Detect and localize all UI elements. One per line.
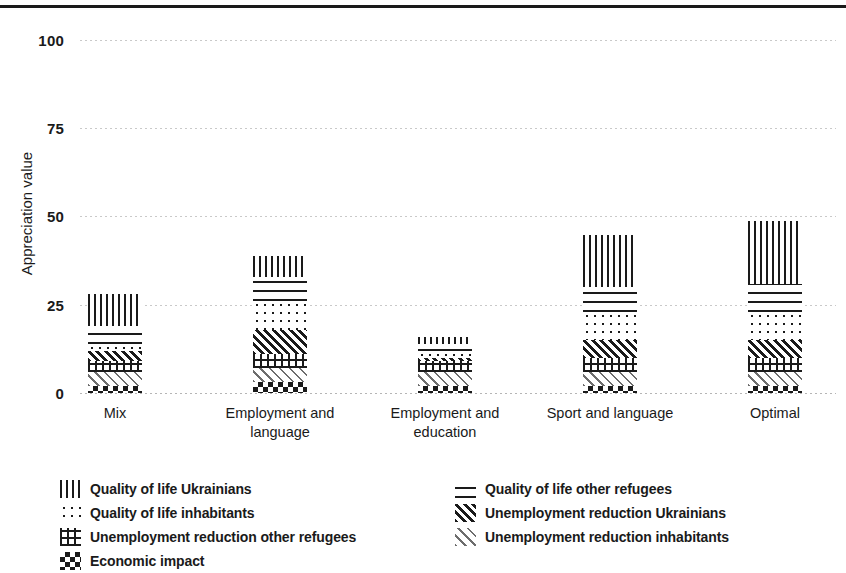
bar-segment <box>748 284 802 312</box>
y-tick-75: 75 <box>20 120 64 137</box>
bar-sport-and-language[interactable] <box>583 235 637 393</box>
bar-segment <box>418 372 472 386</box>
bar-segment <box>253 382 307 393</box>
legend-label: Quality of life inhabitants <box>90 505 255 521</box>
axis-baseline <box>80 393 836 394</box>
y-tick-0: 0 <box>20 385 64 402</box>
horizontal-lines-swatch-icon <box>455 480 476 498</box>
x-tick-sport-and-language: Sport and language <box>535 404 685 423</box>
legend-item-unemployment-reduction-ukrainians[interactable]: Unemployment reduction Ukrainians <box>455 504 726 522</box>
bar-segment <box>418 351 472 358</box>
x-tick-optimal: Optimal <box>700 404 846 423</box>
bar-segment <box>748 340 802 358</box>
gridline-75 <box>80 128 836 129</box>
bar-segment <box>253 330 307 355</box>
cross-grid-swatch-icon <box>60 528 81 546</box>
y-tick-25: 25 <box>20 297 64 314</box>
gridline-100 <box>80 40 836 41</box>
vertical-lines-swatch-icon <box>60 480 81 498</box>
legend-label: Quality of life other refugees <box>485 481 672 497</box>
bar-employment-and-language[interactable] <box>253 256 307 393</box>
bar-segment <box>748 312 802 340</box>
dots-swatch-icon <box>60 504 81 522</box>
bar-employment-and-education[interactable] <box>418 337 472 393</box>
legend-label: Quality of life Ukrainians <box>90 481 252 497</box>
legend-item-economic-impact[interactable]: Economic impact <box>60 552 204 570</box>
legend-item-quality-of-life-other-refugees[interactable]: Quality of life other refugees <box>455 480 672 498</box>
legend-label: Unemployment reduction other refugees <box>90 529 356 545</box>
legend-label: Unemployment reduction Ukrainians <box>485 505 726 521</box>
bar-segment <box>583 386 637 393</box>
bar-segment <box>418 344 472 351</box>
bar-segment <box>253 301 307 329</box>
gridline-50 <box>80 216 836 217</box>
bar-segment <box>748 386 802 393</box>
bar-segment <box>88 361 142 372</box>
bar-segment <box>418 361 472 372</box>
bar-optimal[interactable] <box>748 221 802 393</box>
bar-segment <box>583 372 637 386</box>
bar-segment <box>748 358 802 372</box>
bar-segment <box>88 386 142 393</box>
bar-segment <box>253 368 307 382</box>
legend-item-quality-of-life-ukrainians[interactable]: Quality of life Ukrainians <box>60 480 252 498</box>
checker-swatch-icon <box>60 552 81 570</box>
bar-segment <box>748 221 802 284</box>
chart-plot-area: Appreciation value 100 75 50 25 0 Mix Em… <box>0 0 846 470</box>
legend-item-unemployment-reduction-other-refugees[interactable]: Unemployment reduction other refugees <box>60 528 356 546</box>
x-tick-employment-and-education: Employment and education <box>370 404 520 442</box>
chart-legend: Quality of life Ukrainians Quality of li… <box>0 476 846 568</box>
legend-label: Unemployment reduction inhabitants <box>485 529 729 545</box>
bar-segment <box>88 344 142 351</box>
bar-segment <box>418 337 472 344</box>
bar-segment <box>583 287 637 312</box>
bar-segment <box>88 326 142 344</box>
bar-segment <box>583 340 637 358</box>
dense-diagonal-swatch-icon <box>455 504 476 522</box>
y-tick-100: 100 <box>20 32 64 49</box>
bar-segment <box>748 372 802 386</box>
bar-mix[interactable] <box>88 294 142 393</box>
y-tick-50: 50 <box>20 208 64 225</box>
light-diagonal-swatch-icon <box>455 528 476 546</box>
bar-segment <box>253 256 307 277</box>
bar-segment <box>583 312 637 340</box>
bar-segment <box>418 386 472 393</box>
legend-item-unemployment-reduction-inhabitants[interactable]: Unemployment reduction inhabitants <box>455 528 729 546</box>
x-tick-mix: Mix <box>40 404 190 423</box>
bar-segment <box>88 351 142 362</box>
bar-segment <box>88 372 142 386</box>
legend-item-quality-of-life-inhabitants[interactable]: Quality of life inhabitants <box>60 504 255 522</box>
bar-segment <box>88 294 142 326</box>
bar-segment <box>583 235 637 288</box>
gridline-25 <box>80 305 836 306</box>
legend-label: Economic impact <box>90 553 204 569</box>
x-tick-employment-and-language: Employment and language <box>205 404 355 442</box>
bar-segment <box>253 354 307 368</box>
bar-segment <box>253 277 307 302</box>
bar-segment <box>583 358 637 372</box>
